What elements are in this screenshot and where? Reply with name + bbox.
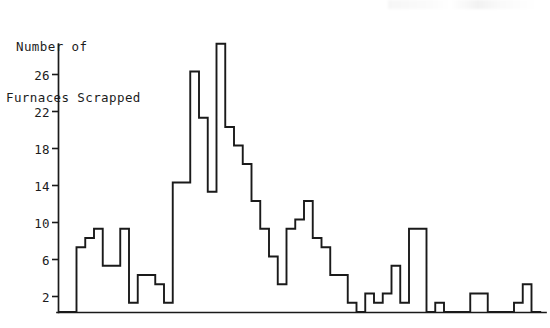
plot-area xyxy=(0,0,550,328)
histogram-step-outline xyxy=(59,44,540,312)
furnaces-scrapped-histogram: Number of Furnaces Scrapped 26 22 18 14 … xyxy=(0,0,550,328)
axes xyxy=(52,44,546,313)
